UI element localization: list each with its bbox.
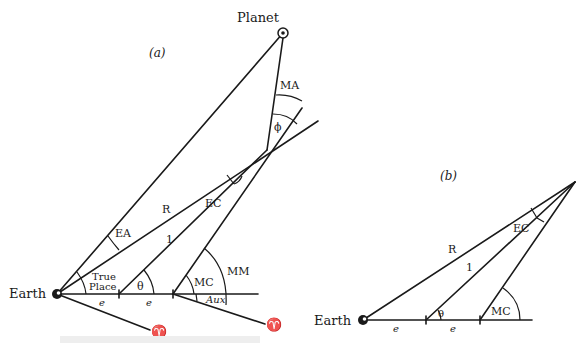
earth-label-a: Earth bbox=[9, 286, 47, 301]
angle-label-EA: EA bbox=[115, 227, 132, 240]
earth-icon bbox=[52, 289, 62, 299]
arc-theta bbox=[144, 270, 154, 294]
line-label-e1-b: e bbox=[393, 323, 399, 334]
line-label-one-b: 1 bbox=[466, 261, 473, 274]
diagram-b: (b) Earth EC R 1 θ MC e e bbox=[314, 169, 575, 334]
arc-EC bbox=[227, 175, 234, 184]
angle-label-MC-b: MC bbox=[491, 305, 511, 318]
angle-label-EC: EC bbox=[205, 197, 221, 210]
line-label-one: 1 bbox=[166, 233, 173, 246]
angle-label-phi: ϕ bbox=[274, 121, 282, 134]
line-label-R-b: R bbox=[448, 243, 457, 256]
arc-aux bbox=[196, 294, 197, 301]
angle-label-MA: MA bbox=[280, 79, 300, 92]
cutoff-caption bbox=[60, 336, 260, 343]
equant-line-b bbox=[480, 182, 575, 320]
earth-planet-line bbox=[57, 33, 283, 294]
panel-label-b: (b) bbox=[440, 169, 457, 183]
planet-icon bbox=[278, 28, 288, 38]
planetary-geometry-diagram: (a) Planet Earth MA ϕ EC EA R 1 True Pla… bbox=[0, 0, 585, 343]
arc-MC bbox=[186, 275, 194, 294]
angle-label-place: Place bbox=[89, 281, 116, 292]
angle-label-MC: MC bbox=[194, 276, 214, 289]
line-label-e2-b: e bbox=[450, 323, 456, 334]
line-label-e1: e bbox=[99, 297, 105, 308]
earth-icon-b bbox=[358, 315, 368, 325]
angle-label-theta: θ bbox=[137, 280, 144, 293]
angle-label-EC-b: EC bbox=[513, 222, 529, 235]
angle-label-aux: Aux bbox=[205, 294, 226, 305]
line-label-e2: e bbox=[146, 297, 152, 308]
angle-label-MM: MM bbox=[227, 265, 250, 278]
angle-label-theta-b: θ bbox=[438, 308, 444, 319]
diagram-a: (a) Planet Earth MA ϕ EC EA R 1 True Pla… bbox=[9, 10, 318, 339]
earth-center-line-b bbox=[363, 182, 575, 320]
planet-label: Planet bbox=[237, 10, 280, 25]
arc-EC-b2 bbox=[537, 218, 544, 222]
aries-icon-2: ♈ bbox=[266, 317, 282, 332]
earth-epicycle-center-line bbox=[57, 121, 318, 294]
earth-label-b: Earth bbox=[314, 313, 352, 328]
line-label-R: R bbox=[162, 203, 171, 216]
panel-label-a: (a) bbox=[149, 46, 166, 60]
arc-MA bbox=[276, 95, 302, 101]
